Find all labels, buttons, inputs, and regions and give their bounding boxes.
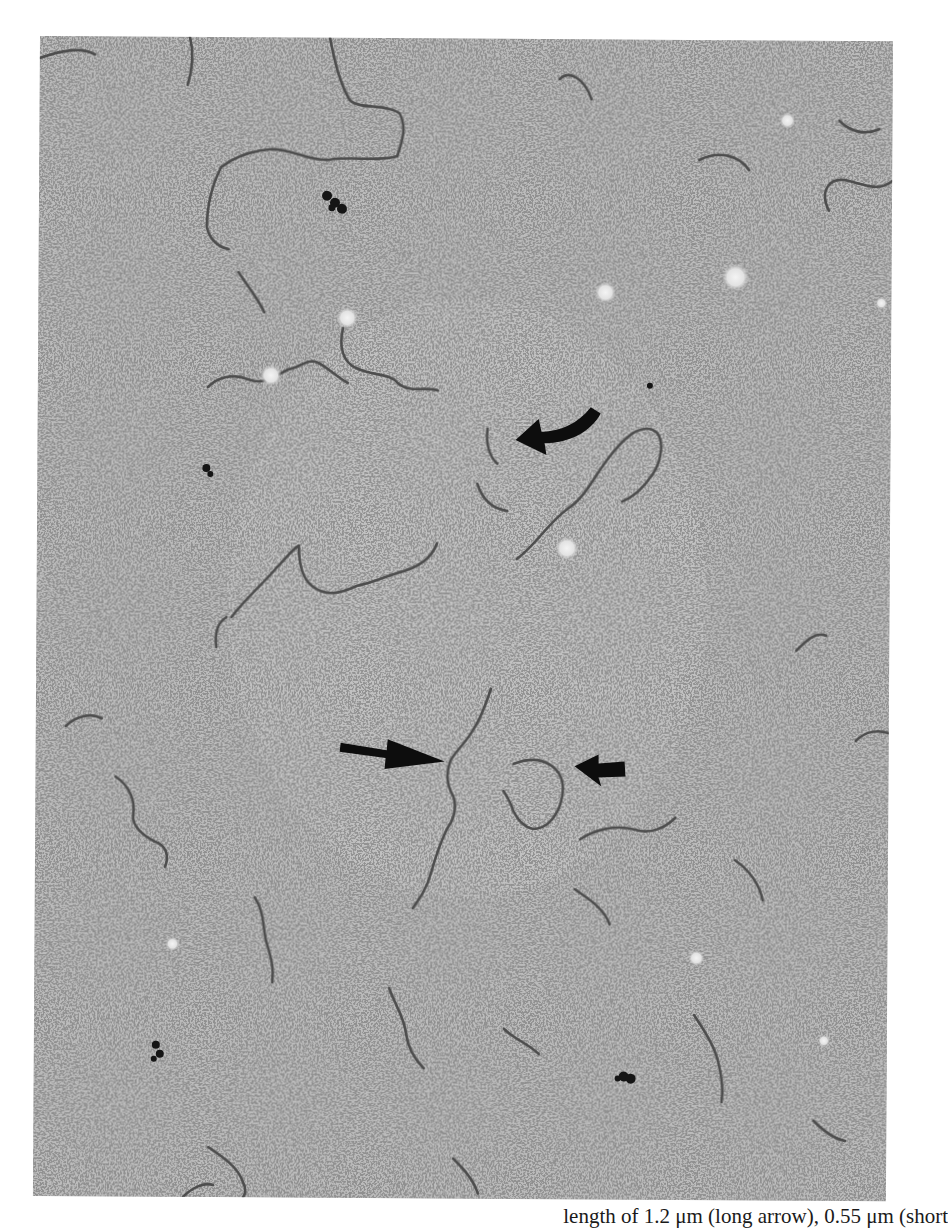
micrograph-figure xyxy=(33,36,893,1201)
micrograph-image xyxy=(33,36,893,1201)
figure-caption: length of 1.2 μm (long arrow), 0.55 μm (… xyxy=(48,1204,948,1228)
